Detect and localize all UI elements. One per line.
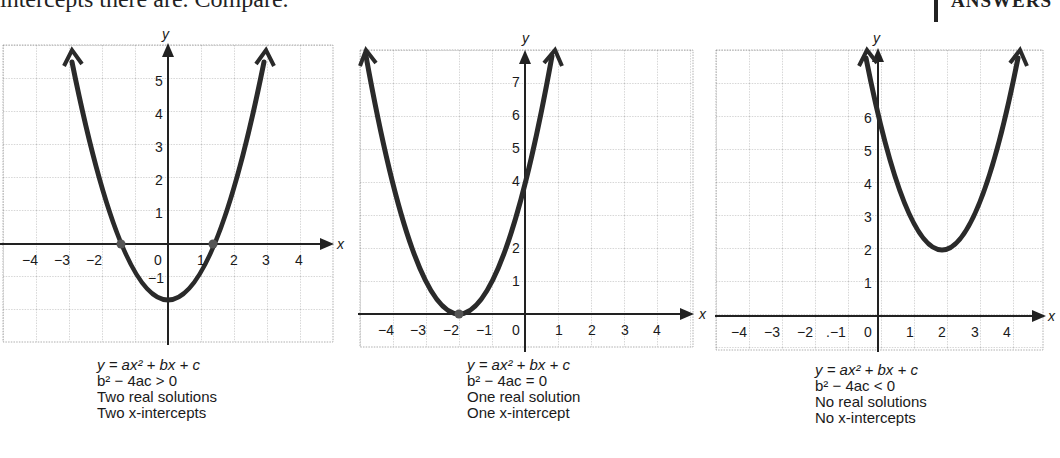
x-tick: −3 <box>764 324 780 340</box>
x-tick: 1 <box>906 324 914 340</box>
caption-solutions: No real solutions <box>815 394 927 410</box>
x-axis-label: x <box>1048 308 1055 324</box>
x-tick: 4 <box>1003 324 1011 340</box>
x-tick: −4 <box>731 324 747 340</box>
y-axis-label: y <box>873 30 880 46</box>
y-tick: 6 <box>864 110 872 126</box>
x-tick: −2 <box>797 324 813 340</box>
caption-discriminant: b² − 4ac < 0 <box>815 378 927 394</box>
x-tick: 2 <box>938 324 946 340</box>
x-tick: .−1 <box>826 324 846 340</box>
x-tick: 0 <box>864 324 872 340</box>
caption-equation: y = ax² + bx + c <box>815 362 927 378</box>
y-tick: 1 <box>864 275 872 291</box>
y-tick: 3 <box>864 209 872 225</box>
caption-no-solutions: y = ax² + bx + c b² − 4ac < 0 No real so… <box>815 362 927 426</box>
caption-intercepts: No x-intercepts <box>815 410 927 426</box>
y-tick: 5 <box>864 143 872 159</box>
x-tick: 3 <box>971 324 979 340</box>
y-tick: 2 <box>864 242 872 258</box>
y-tick: 4 <box>864 176 872 192</box>
grid <box>716 50 1043 350</box>
